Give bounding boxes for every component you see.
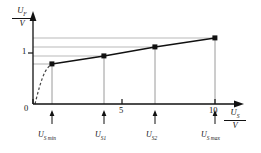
data-point-4 <box>212 35 217 40</box>
x-axis-label: US V <box>224 108 246 129</box>
figure-root: UF V US V 1 0 5 10 US min US1 US2 US max <box>0 0 261 153</box>
y-axis-label-subscript: F <box>23 11 26 17</box>
annotation-sub-0: S min <box>44 135 56 141</box>
arrow-u-s2 <box>153 110 158 124</box>
annotation-sub-3: S max <box>207 135 220 141</box>
annotation-label-u-s2: US2 <box>146 130 157 141</box>
data-point-2 <box>101 53 106 58</box>
annotation-arrows <box>50 110 218 124</box>
x-axis-label-denominator: V <box>224 120 246 130</box>
arrow-u-s1 <box>102 110 107 124</box>
y-axis-label: UF V <box>12 6 32 27</box>
annotation-label-u-s1: US1 <box>95 130 106 141</box>
annotation-label-u-s-max: US max <box>201 130 220 141</box>
y-tick-label-1: 1 <box>22 46 26 56</box>
annotation-sub-2: S2 <box>152 135 157 141</box>
dashed-characteristic-curve <box>35 64 52 104</box>
arrow-u-s-min <box>50 110 55 124</box>
operating-line <box>52 38 215 64</box>
x-tick-label-10: 10 <box>209 105 218 115</box>
annotation-label-u-s-min: US min <box>38 130 56 141</box>
vertical-droplines <box>52 38 215 104</box>
data-point-3 <box>152 44 157 49</box>
y-axis-label-denominator: V <box>12 18 32 28</box>
x-tick-label-5: 5 <box>119 105 123 115</box>
data-point-1 <box>49 61 54 66</box>
x-axis-label-subscript: S <box>237 113 240 119</box>
annotation-sub-1: S1 <box>101 135 106 141</box>
x-tick-label-0: 0 <box>24 103 28 113</box>
